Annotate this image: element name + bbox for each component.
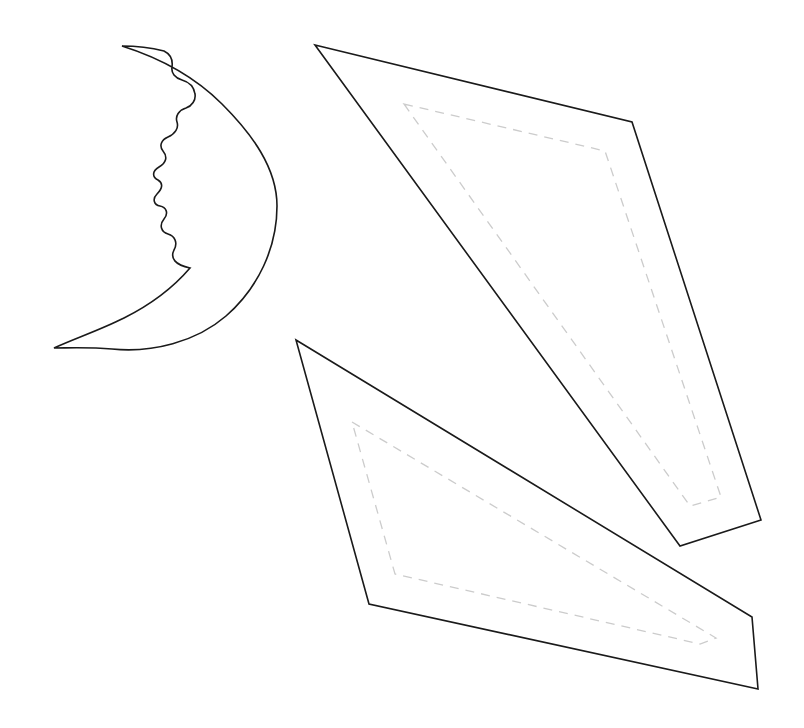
pattern-sheet [0,0,804,728]
pattern-canvas [0,0,804,728]
